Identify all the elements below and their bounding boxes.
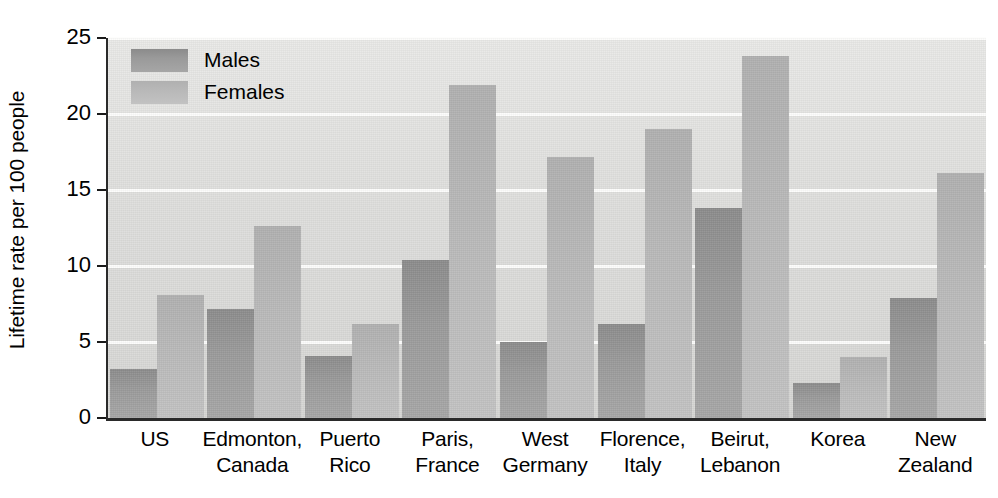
x-axis-category-line1: US: [140, 427, 169, 450]
legend-swatch-females-icon: [131, 81, 188, 104]
x-axis-category-line1: Puerto: [320, 427, 381, 450]
bar-males-3: [402, 260, 449, 418]
bar-males-4: [500, 342, 547, 418]
bar-females-0: [157, 295, 204, 418]
y-axis-tick-mark: [97, 37, 106, 39]
y-axis: 0510152025: [38, 0, 106, 498]
y-axis-tick-label: 5: [79, 330, 97, 352]
y-axis-tick-mark: [97, 189, 106, 191]
bar-females-2: [352, 324, 399, 418]
legend-label-males: Males: [204, 48, 260, 72]
x-axis-category-line1: Paris,: [421, 427, 473, 450]
bar-males-6: [695, 208, 742, 418]
y-axis-tick-label: 25: [67, 26, 97, 48]
y-axis-tick-mark: [97, 265, 106, 267]
bar-males-5: [598, 324, 645, 418]
bar-males-1: [207, 309, 254, 418]
x-axis-labels: USEdmonton,CanadaPuertoRicoParis,FranceW…: [106, 426, 984, 492]
legend-label-females: Females: [204, 80, 285, 104]
x-axis-category-line1: Florence,: [600, 427, 686, 450]
legend-swatch-males-icon: [131, 49, 188, 72]
bar-males-0: [110, 369, 157, 418]
bar-females-3: [449, 85, 496, 418]
bar-females-8: [937, 173, 984, 418]
x-axis-line: [106, 418, 986, 421]
legend-item-males: Males: [131, 44, 285, 76]
x-axis-category-line2: Zealand: [876, 452, 994, 478]
y-axis-title: Lifetime rate per 100 people: [0, 0, 34, 440]
bar-chart-figure: Lifetime rate per 100 people 0510152025 …: [0, 0, 998, 498]
legend-item-females: Females: [131, 76, 285, 108]
y-axis-tick-label: 0: [79, 406, 97, 428]
bar-females-4: [547, 157, 594, 418]
bar-females-6: [742, 56, 789, 418]
x-axis-category-line1: Beirut,: [710, 427, 769, 450]
x-axis-category-label: NewZealand: [876, 426, 994, 478]
bar-females-1: [254, 226, 301, 418]
y-axis-tick-label: 15: [67, 178, 97, 200]
y-axis-tick-mark: [97, 417, 106, 419]
x-axis-category-line1: Korea: [810, 427, 865, 450]
y-axis-tick-mark: [97, 341, 106, 343]
bar-females-7: [840, 357, 887, 418]
bar-females-5: [645, 129, 692, 418]
x-axis-category-line1: Edmonton,: [202, 427, 302, 450]
bar-males-2: [305, 356, 352, 418]
y-axis-tick-label: 10: [67, 254, 97, 276]
x-axis-category-line1: New: [915, 427, 956, 450]
x-axis-category-line2: Lebanon: [681, 452, 799, 478]
bar-males-8: [890, 298, 937, 418]
y-axis-tick-label: 20: [67, 102, 97, 124]
y-axis-tick-mark: [97, 113, 106, 115]
chart-legend: Males Females: [131, 44, 285, 108]
x-axis-category-line1: West: [522, 427, 569, 450]
bar-males-7: [793, 383, 840, 418]
